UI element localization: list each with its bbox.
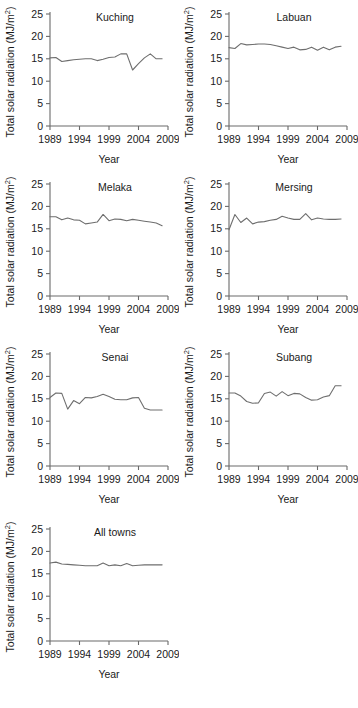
x-tick-label: 2004 xyxy=(127,473,151,485)
chart-panel-senai: 051015202519891994199920042009SenaiTotal… xyxy=(0,340,179,510)
x-tick-label: 1999 xyxy=(276,133,300,145)
x-tick-label: 1994 xyxy=(68,133,92,145)
x-tick-label: 1989 xyxy=(38,473,62,485)
y-tick-label: 20 xyxy=(31,545,43,557)
x-tick-label: 1994 xyxy=(247,133,271,145)
y-tick-label: 0 xyxy=(216,290,222,302)
chart-svg: 051015202519891994199920042009SubangTota… xyxy=(179,340,358,510)
x-tick-label: 1989 xyxy=(217,473,241,485)
x-tick-label: 1999 xyxy=(97,303,121,315)
chart-svg: 051015202519891994199920042009KuchingTot… xyxy=(0,0,179,170)
panel-title: Melaka xyxy=(98,181,132,193)
y-tick-label: 0 xyxy=(216,460,222,472)
x-tick-label: 1999 xyxy=(97,133,121,145)
y-tick-label: 0 xyxy=(37,120,43,132)
y-tick-label: 5 xyxy=(37,97,43,109)
x-axis-title: Year xyxy=(277,323,299,335)
y-axis-title: Total solar radiation (MJ/m2) xyxy=(182,177,195,308)
x-axis-title: Year xyxy=(98,668,120,680)
x-tick-label: 1989 xyxy=(38,648,62,660)
x-tick-label: 2009 xyxy=(156,133,179,145)
y-axis-title: Total solar radiation (MJ/m2) xyxy=(3,522,16,653)
panel-title: Labuan xyxy=(276,11,311,23)
y-tick-label: 0 xyxy=(37,460,43,472)
x-tick-label: 1994 xyxy=(68,648,92,660)
y-tick-label: 25 xyxy=(31,8,43,20)
panel-title: Subang xyxy=(276,351,312,363)
data-series-line xyxy=(229,44,341,51)
y-tick-label: 20 xyxy=(31,370,43,382)
x-tick-label: 2009 xyxy=(156,648,179,660)
y-tick-label: 20 xyxy=(31,30,43,42)
y-axis-title: Total solar radiation (MJ/m2) xyxy=(3,177,16,308)
x-tick-label: 1989 xyxy=(38,303,62,315)
y-tick-label: 25 xyxy=(210,348,222,360)
x-tick-label: 1999 xyxy=(97,473,121,485)
svg-text:Total solar radiation (MJ/m2): Total solar radiation (MJ/m2) xyxy=(182,177,195,308)
y-tick-label: 10 xyxy=(210,415,222,427)
y-tick-label: 20 xyxy=(210,370,222,382)
y-tick-label: 10 xyxy=(31,245,43,257)
x-tick-label: 1989 xyxy=(38,133,62,145)
y-tick-label: 5 xyxy=(37,437,43,449)
panel-title: Mersing xyxy=(275,181,313,193)
x-tick-label: 2004 xyxy=(127,133,151,145)
y-axis-title: Total solar radiation (MJ/m2) xyxy=(182,7,195,138)
y-tick-label: 25 xyxy=(210,178,222,190)
x-tick-label: 1999 xyxy=(97,648,121,660)
x-axis-title: Year xyxy=(98,323,120,335)
figure-solar-radiation-panels: 051015202519891994199920042009KuchingTot… xyxy=(0,0,358,708)
x-tick-label: 1989 xyxy=(217,303,241,315)
svg-text:Total solar radiation (MJ/m2): Total solar radiation (MJ/m2) xyxy=(3,7,16,138)
data-series-line xyxy=(50,214,162,225)
y-tick-label: 25 xyxy=(31,178,43,190)
y-tick-label: 5 xyxy=(37,267,43,279)
y-tick-label: 5 xyxy=(37,612,43,624)
data-series-line xyxy=(229,386,341,403)
y-tick-label: 15 xyxy=(210,52,222,64)
y-tick-label: 10 xyxy=(31,75,43,87)
chart-panel-kuching: 051015202519891994199920042009KuchingTot… xyxy=(0,0,179,170)
y-tick-label: 20 xyxy=(31,200,43,212)
y-tick-label: 25 xyxy=(210,8,222,20)
svg-text:Total solar radiation (MJ/m2): Total solar radiation (MJ/m2) xyxy=(3,347,16,478)
panel-title: Senai xyxy=(102,351,129,363)
y-tick-label: 5 xyxy=(216,437,222,449)
y-tick-label: 15 xyxy=(210,222,222,234)
y-tick-label: 15 xyxy=(31,222,43,234)
chart-svg: 051015202519891994199920042009SenaiTotal… xyxy=(0,340,179,510)
chart-panel-all-towns: 051015202519891994199920042009All townsT… xyxy=(0,515,179,708)
y-tick-label: 15 xyxy=(31,52,43,64)
y-tick-label: 20 xyxy=(210,200,222,212)
x-tick-label: 1989 xyxy=(217,133,241,145)
x-tick-label: 2004 xyxy=(127,303,151,315)
data-series-line xyxy=(50,54,162,70)
chart-panel-subang: 051015202519891994199920042009SubangTota… xyxy=(179,340,358,510)
x-tick-label: 2009 xyxy=(335,133,358,145)
x-tick-label: 2004 xyxy=(306,303,330,315)
svg-text:Total solar radiation (MJ/m2): Total solar radiation (MJ/m2) xyxy=(3,177,16,308)
y-tick-label: 15 xyxy=(31,392,43,404)
y-tick-label: 5 xyxy=(216,267,222,279)
y-tick-label: 10 xyxy=(210,245,222,257)
y-tick-label: 15 xyxy=(210,392,222,404)
chart-panel-labuan: 051015202519891994199920042009LabuanTota… xyxy=(179,0,358,170)
y-tick-label: 10 xyxy=(31,415,43,427)
x-tick-label: 2004 xyxy=(306,133,330,145)
x-tick-label: 1999 xyxy=(276,303,300,315)
panel-title: All towns xyxy=(94,526,136,538)
chart-svg: 051015202519891994199920042009All townsT… xyxy=(0,515,179,708)
y-tick-label: 20 xyxy=(210,30,222,42)
y-axis-title: Total solar radiation (MJ/m2) xyxy=(3,7,16,138)
x-axis-title: Year xyxy=(98,153,120,165)
y-tick-label: 5 xyxy=(216,97,222,109)
x-tick-label: 1994 xyxy=(68,303,92,315)
y-tick-label: 0 xyxy=(37,635,43,647)
chart-svg: 051015202519891994199920042009MelakaTota… xyxy=(0,170,179,340)
x-tick-label: 1994 xyxy=(68,473,92,485)
svg-text:Total solar radiation (MJ/m2): Total solar radiation (MJ/m2) xyxy=(3,522,16,653)
x-axis-title: Year xyxy=(277,153,299,165)
y-tick-label: 10 xyxy=(31,590,43,602)
x-tick-label: 1994 xyxy=(247,473,271,485)
x-tick-label: 2009 xyxy=(335,303,358,315)
